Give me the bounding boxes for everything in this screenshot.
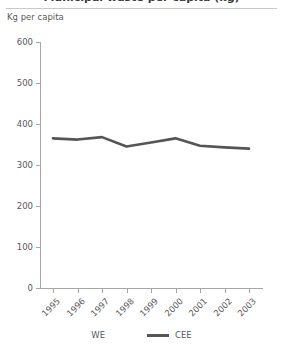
y-tick-label: 600	[17, 37, 33, 47]
x-tick-mark	[176, 289, 177, 293]
series-line-cee	[53, 137, 249, 148]
y-tick-label: 500	[17, 78, 33, 88]
chart-title: Municipal waste per capita (kg)	[0, 0, 283, 4]
y-tick-label: 0	[28, 283, 33, 293]
title-divider	[6, 8, 277, 9]
y-tick-label: 200	[17, 201, 33, 211]
legend-item-cee[interactable]: CEE	[147, 330, 192, 340]
x-tick-mark	[78, 289, 79, 293]
x-tick-mark	[249, 289, 250, 293]
x-tick-mark	[151, 289, 152, 293]
chart-container: Municipal waste per capita (kg) Kg per c…	[0, 0, 283, 357]
legend-label: WE	[91, 330, 105, 340]
series-lines	[40, 42, 262, 288]
chart-legend: WECEE	[0, 330, 283, 340]
x-tick-mark	[200, 289, 201, 293]
y-axis-unit-label: Kg per capita	[7, 12, 64, 22]
y-tick-label: 300	[17, 160, 33, 170]
legend-swatch-we	[111, 334, 133, 337]
y-tick-mark	[36, 288, 40, 289]
x-tick-mark	[225, 289, 226, 293]
y-tick-label: 400	[17, 119, 33, 129]
x-tick-mark	[102, 289, 103, 293]
plot-area	[40, 42, 262, 288]
x-tick-mark	[127, 289, 128, 293]
legend-label: CEE	[175, 330, 192, 340]
legend-item-we[interactable]: WE	[91, 330, 133, 340]
y-tick-label: 100	[17, 242, 33, 252]
x-tick-mark	[53, 289, 54, 293]
legend-swatch-cee	[147, 334, 169, 337]
